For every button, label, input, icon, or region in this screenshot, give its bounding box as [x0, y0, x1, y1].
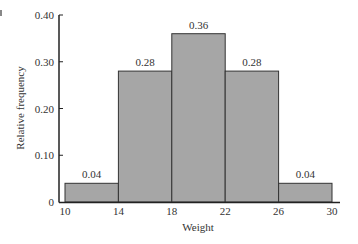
x-tick-label: 10	[60, 205, 72, 217]
y-tick-label: 0	[49, 196, 55, 208]
corner-mark	[0, 10, 2, 16]
x-ticks-group: 101418222630	[60, 205, 339, 217]
histogram-bar	[118, 71, 171, 202]
histogram-bar	[172, 34, 225, 202]
histogram-bar	[225, 71, 278, 202]
x-tick-label: 14	[113, 205, 125, 217]
bar-value-label: 0.28	[135, 56, 155, 68]
y-tick-label: 0.20	[35, 103, 55, 115]
y-tick-label: 0.30	[35, 56, 55, 68]
histogram-chart: 0.040.280.360.280.04 00.100.200.300.40 1…	[0, 0, 358, 244]
x-tick-label: 30	[327, 205, 339, 217]
histogram-bar	[279, 183, 332, 202]
x-tick-label: 22	[220, 205, 231, 217]
bar-value-label: 0.04	[82, 168, 102, 180]
bars-group	[65, 34, 332, 202]
bar-value-label: 0.36	[189, 19, 209, 31]
bar-value-label: 0.04	[296, 168, 316, 180]
x-axis-label: Weight	[182, 221, 214, 233]
y-axis-label: Relative frequency	[14, 66, 26, 150]
x-tick-label: 18	[166, 205, 178, 217]
histogram-bar	[65, 183, 118, 202]
x-tick-label: 26	[273, 205, 285, 217]
y-tick-label: 0.10	[35, 149, 55, 161]
y-tick-label: 0.40	[35, 9, 55, 21]
bar-value-label: 0.28	[242, 56, 262, 68]
